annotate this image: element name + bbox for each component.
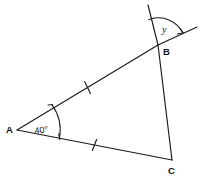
angle-label-B-y: y	[161, 24, 167, 35]
vertex-label-B: B	[163, 46, 170, 57]
vertex-labels: A B C	[6, 46, 175, 176]
extension-CB-beyond-B	[148, 5, 158, 45]
geometry-diagram: A B C 40° y	[0, 0, 204, 179]
vertex-label-A: A	[6, 124, 13, 135]
triangle-sides	[17, 45, 172, 160]
angle-arc-B-arrowhead-right	[177, 28, 183, 35]
angle-arc-A-path	[52, 105, 60, 138]
side-BC	[158, 45, 172, 160]
angle-arc-B-path	[152, 18, 183, 33]
angle-label-A-40deg: 40°	[34, 124, 49, 136]
tick-mark-side-AB	[85, 82, 91, 94]
line-extensions	[148, 5, 197, 45]
congruence-tick-marks	[85, 82, 97, 151]
geometry-canvas: A B C 40° y	[0, 0, 204, 179]
vertex-label-C: C	[168, 165, 175, 176]
